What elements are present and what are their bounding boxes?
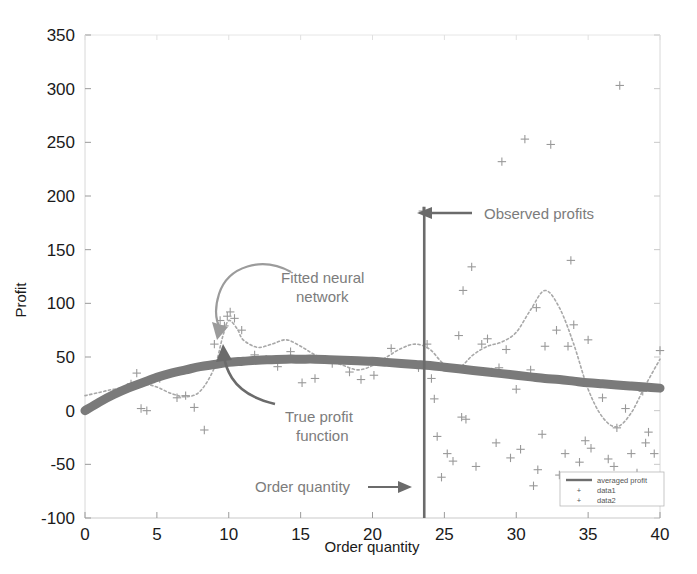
y-tick-label: 0 — [66, 402, 75, 421]
x-tick-label: 40 — [651, 525, 670, 544]
legend-marker-data1-icon: + — [577, 486, 582, 495]
x-tick-label: 30 — [507, 525, 526, 544]
y-tick-label: -100 — [41, 509, 75, 528]
x-tick-label: 5 — [152, 525, 161, 544]
x-tick-label: 0 — [80, 525, 89, 544]
legend-label-data1: data1 — [597, 486, 616, 495]
y-tick-label: 150 — [47, 241, 75, 260]
y-tick-label: 100 — [47, 294, 75, 313]
profit-vs-order-quantity-chart: 350300250200150100500-50-100 05101520253… — [0, 0, 697, 574]
x-tick-label: 35 — [579, 525, 598, 544]
y-tick-label: 250 — [47, 133, 75, 152]
x-tick-label: 25 — [435, 525, 454, 544]
fitted-neural-network-label-line1: Fitted neural — [281, 269, 364, 286]
chart-figure: 350300250200150100500-50-100 05101520253… — [0, 0, 697, 574]
x-axis-title: Order quantity — [324, 538, 420, 555]
observed-profits-label: Observed profits — [484, 205, 594, 222]
legend-label-averaged-profit: averaged profit — [597, 476, 648, 485]
legend-label-data2: data2 — [597, 496, 616, 505]
fitted-neural-network-label-line2: network — [296, 288, 349, 305]
order-quantity-annotation-label: Order quantity — [255, 478, 351, 495]
legend-marker-data2-icon: + — [577, 496, 582, 505]
y-tick-label: 350 — [47, 26, 75, 45]
y-tick-label: 300 — [47, 80, 75, 99]
true-profit-function-label-line2: function — [296, 427, 349, 444]
y-tick-label: 200 — [47, 187, 75, 206]
x-tick-label: 10 — [219, 525, 238, 544]
x-tick-label: 15 — [291, 525, 310, 544]
true-profit-function-label-line1: True profit — [285, 408, 354, 425]
y-tick-label: 50 — [56, 348, 75, 367]
chart-legend[interactable]: averaged profit + data1 + data2 — [560, 472, 664, 506]
y-axis-title: Profit — [12, 282, 29, 318]
y-tick-label: -50 — [50, 455, 75, 474]
